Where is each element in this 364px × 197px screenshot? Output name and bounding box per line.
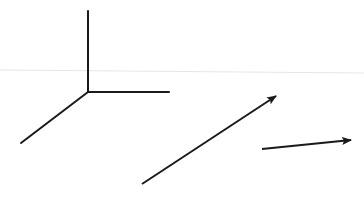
depth-axis	[21, 92, 88, 143]
long-diagonal-arrow	[142, 96, 276, 184]
short-arrow	[262, 140, 351, 149]
faint-horizontal-line	[0, 70, 364, 73]
vector-diagram	[0, 0, 364, 197]
coordinate-axes	[21, 11, 169, 143]
